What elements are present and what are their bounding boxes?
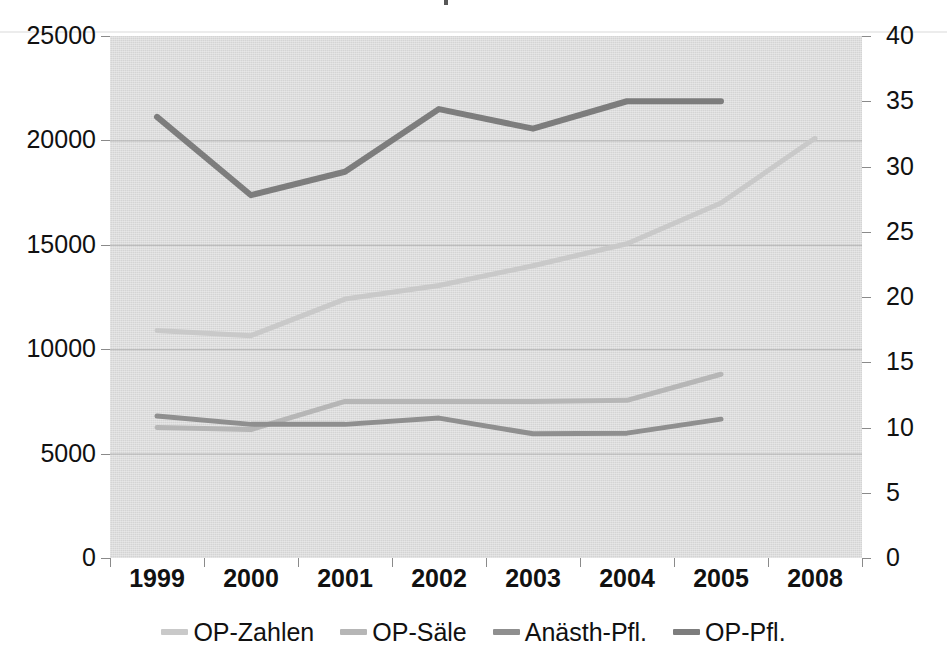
y-axis-right-tick-label: 10 bbox=[886, 415, 946, 440]
legend-label: Anästh-Pfl. bbox=[525, 620, 647, 645]
legend-swatch-icon bbox=[673, 629, 700, 635]
y-axis-right-tick-mark bbox=[862, 167, 871, 168]
y-axis-left-tick-label: 20000 bbox=[0, 127, 96, 152]
cropped-title-strip bbox=[0, 31, 947, 33]
y-axis-left-tick-mark bbox=[101, 36, 110, 37]
chart-figure: 0500010000150002000025000 05101520253035… bbox=[0, 0, 947, 667]
x-axis-tick-mark bbox=[768, 558, 769, 567]
y-axis-right-tick-mark bbox=[862, 36, 871, 37]
x-axis-tick-mark bbox=[110, 558, 111, 567]
y-axis-right-tick-mark bbox=[862, 362, 871, 363]
legend-swatch-icon bbox=[340, 629, 367, 635]
legend-label: OP-Zahlen bbox=[193, 620, 314, 645]
y-axis-right-tick-label: 30 bbox=[886, 154, 946, 179]
plot-area bbox=[110, 36, 862, 558]
y-axis-right-tick-mark bbox=[862, 558, 871, 559]
y-axis-right-tick-label: 40 bbox=[886, 23, 946, 48]
x-axis-tick-mark bbox=[204, 558, 205, 567]
x-axis-tick-mark bbox=[486, 558, 487, 567]
legend-label: OP-Säle bbox=[372, 620, 466, 645]
x-axis-tick-mark bbox=[392, 558, 393, 567]
y-axis-right-tick-label: 35 bbox=[886, 88, 946, 113]
legend-item[interactable]: Anästh-Pfl. bbox=[493, 620, 647, 645]
y-axis-left-tick-label: 10000 bbox=[0, 336, 96, 361]
x-axis-tick-label: 2008 bbox=[760, 566, 870, 591]
y-axis-left-tick-label: 0 bbox=[0, 545, 96, 570]
legend-swatch-icon bbox=[161, 629, 188, 635]
y-axis-right-tick-label: 25 bbox=[886, 219, 946, 244]
x-axis-tick-mark bbox=[580, 558, 581, 567]
x-axis-tick-mark bbox=[298, 558, 299, 567]
x-axis-tick-mark bbox=[674, 558, 675, 567]
legend-label: OP-Pfl. bbox=[705, 620, 786, 645]
x-axis-tick-mark bbox=[862, 558, 863, 567]
y-axis-left-tick-mark bbox=[101, 349, 110, 350]
y-axis-left-tick-mark bbox=[101, 454, 110, 455]
y-axis-left-tick-label: 5000 bbox=[0, 441, 96, 466]
y-axis-left-tick-mark bbox=[101, 245, 110, 246]
y-axis-right-tick-label: 0 bbox=[886, 545, 946, 570]
y-axis-right-tick-mark bbox=[862, 428, 871, 429]
chart-legend: OP-ZahlenOP-SäleAnästh-Pfl.OP-Pfl. bbox=[0, 612, 947, 652]
y-axis-right-tick-label: 15 bbox=[886, 349, 946, 374]
legend-item[interactable]: OP-Pfl. bbox=[673, 620, 786, 645]
y-axis-left-tick-mark bbox=[101, 558, 110, 559]
series-line bbox=[157, 101, 721, 195]
y-axis-right-tick-mark bbox=[862, 232, 871, 233]
y-axis-right-tick-mark bbox=[862, 297, 871, 298]
legend-item[interactable]: OP-Säle bbox=[340, 620, 466, 645]
y-axis-right-tick-label: 5 bbox=[886, 480, 946, 505]
y-axis-right-tick-label: 20 bbox=[886, 284, 946, 309]
legend-swatch-icon bbox=[493, 629, 520, 635]
y-axis-right-tick-mark bbox=[862, 493, 871, 494]
y-axis-left-tick-label: 25000 bbox=[0, 23, 96, 48]
series-line bbox=[157, 138, 815, 335]
y-axis-left-tick-label: 15000 bbox=[0, 232, 96, 257]
y-axis-left-tick-mark bbox=[101, 140, 110, 141]
legend-item[interactable]: OP-Zahlen bbox=[161, 620, 314, 645]
y-axis-right-tick-mark bbox=[862, 101, 871, 102]
cropped-title-speck bbox=[444, 0, 448, 5]
series-lines bbox=[110, 36, 862, 558]
